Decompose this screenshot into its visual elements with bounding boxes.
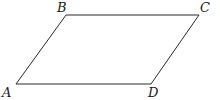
- parallelogram-diagram: A B C D: [0, 0, 220, 100]
- edges: [16, 15, 199, 84]
- vertex-label-b: B: [56, 0, 67, 15]
- vertex-label-c: C: [200, 0, 210, 15]
- edge-ab: [16, 15, 66, 84]
- vertex-label-d: D: [147, 85, 159, 100]
- edge-cd: [151, 15, 199, 84]
- vertex-label-a: A: [1, 85, 11, 100]
